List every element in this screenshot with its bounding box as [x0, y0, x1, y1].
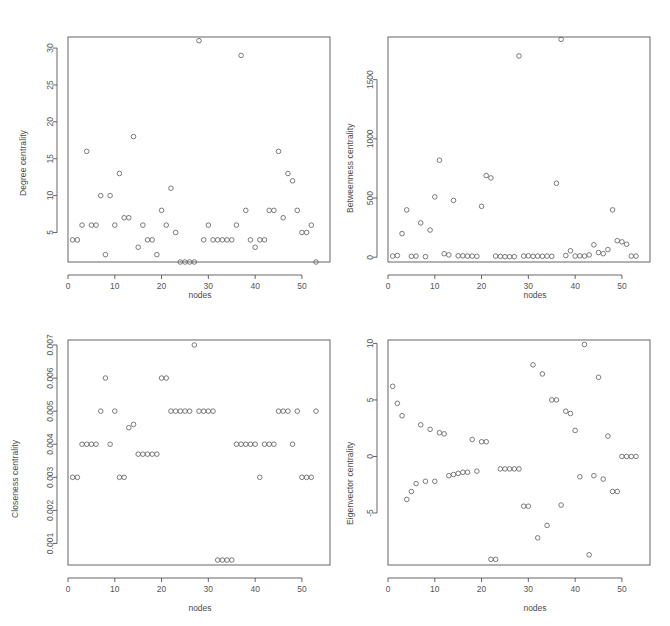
svg-text:10: 10: [45, 191, 55, 201]
svg-text:10: 10: [430, 584, 440, 594]
svg-text:0: 0: [66, 281, 71, 291]
svg-text:0.007: 0.007: [45, 334, 55, 356]
svg-text:50: 50: [297, 584, 307, 594]
data-points: [390, 342, 638, 561]
eigenvector-centrality-plot: 01020304050-50510: [335, 313, 670, 626]
svg-text:5: 5: [45, 230, 55, 235]
svg-text:0.005: 0.005: [45, 400, 55, 422]
y-axis-title-degree: Degree centrality: [18, 130, 28, 196]
svg-text:50: 50: [617, 584, 627, 594]
svg-text:30: 30: [204, 584, 214, 594]
svg-text:0.004: 0.004: [45, 433, 55, 455]
svg-text:10: 10: [110, 584, 120, 594]
panel-closeness-centrality: 010203040500.0010.0020.0030.0040.0050.00…: [0, 313, 335, 626]
svg-text:15: 15: [45, 154, 55, 164]
centrality-figure: 0102030405051015202530 Degree centrality…: [0, 0, 670, 626]
svg-text:20: 20: [45, 117, 55, 127]
svg-text:30: 30: [524, 584, 534, 594]
svg-text:0: 0: [365, 454, 375, 459]
x-axis-title-closeness: nodes: [100, 603, 300, 613]
y-axis-title-eigenvector: Eigenvector centrality: [345, 442, 355, 525]
panel-eigenvector-centrality: 01020304050-50510 Eigenvector centrality…: [335, 313, 670, 626]
svg-text:20: 20: [157, 584, 167, 594]
svg-text:40: 40: [570, 584, 580, 594]
svg-text:500: 500: [365, 191, 375, 205]
panel-betweenness-centrality: 01020304050050010001500 Betweenness cent…: [335, 0, 670, 313]
svg-text:0.003: 0.003: [45, 466, 55, 488]
svg-text:10: 10: [365, 338, 375, 348]
y-axis-title-closeness: Closeness centrality: [10, 440, 20, 518]
svg-text:0.001: 0.001: [45, 533, 55, 555]
data-points: [70, 38, 318, 264]
data-points: [70, 343, 318, 563]
x-axis-title-betweenness: nodes: [435, 290, 635, 300]
x-axis-title-eigenvector: nodes: [435, 603, 635, 613]
panel-degree-centrality: 0102030405051015202530 Degree centrality…: [0, 0, 335, 313]
closeness-centrality-plot: 010203040500.0010.0020.0030.0040.0050.00…: [0, 313, 335, 626]
svg-text:20: 20: [477, 584, 487, 594]
svg-text:1500: 1500: [365, 70, 375, 89]
degree-centrality-plot: 0102030405051015202530: [0, 0, 335, 313]
svg-text:0: 0: [66, 584, 71, 594]
svg-text:0: 0: [365, 255, 375, 260]
svg-text:0.002: 0.002: [45, 500, 55, 522]
svg-text:0: 0: [386, 584, 391, 594]
svg-text:1000: 1000: [365, 129, 375, 148]
svg-text:5: 5: [365, 397, 375, 402]
svg-text:0.006: 0.006: [45, 367, 55, 389]
svg-text:0: 0: [386, 281, 391, 291]
svg-text:25: 25: [45, 80, 55, 90]
svg-text:30: 30: [45, 43, 55, 53]
y-axis-title-betweenness: Betweenness centrality: [345, 123, 355, 213]
svg-text:40: 40: [250, 584, 260, 594]
data-points: [390, 37, 638, 259]
svg-text:-5: -5: [365, 509, 375, 517]
x-axis-title-degree: nodes: [100, 290, 300, 300]
betweenness-centrality-plot: 01020304050050010001500: [335, 0, 670, 313]
